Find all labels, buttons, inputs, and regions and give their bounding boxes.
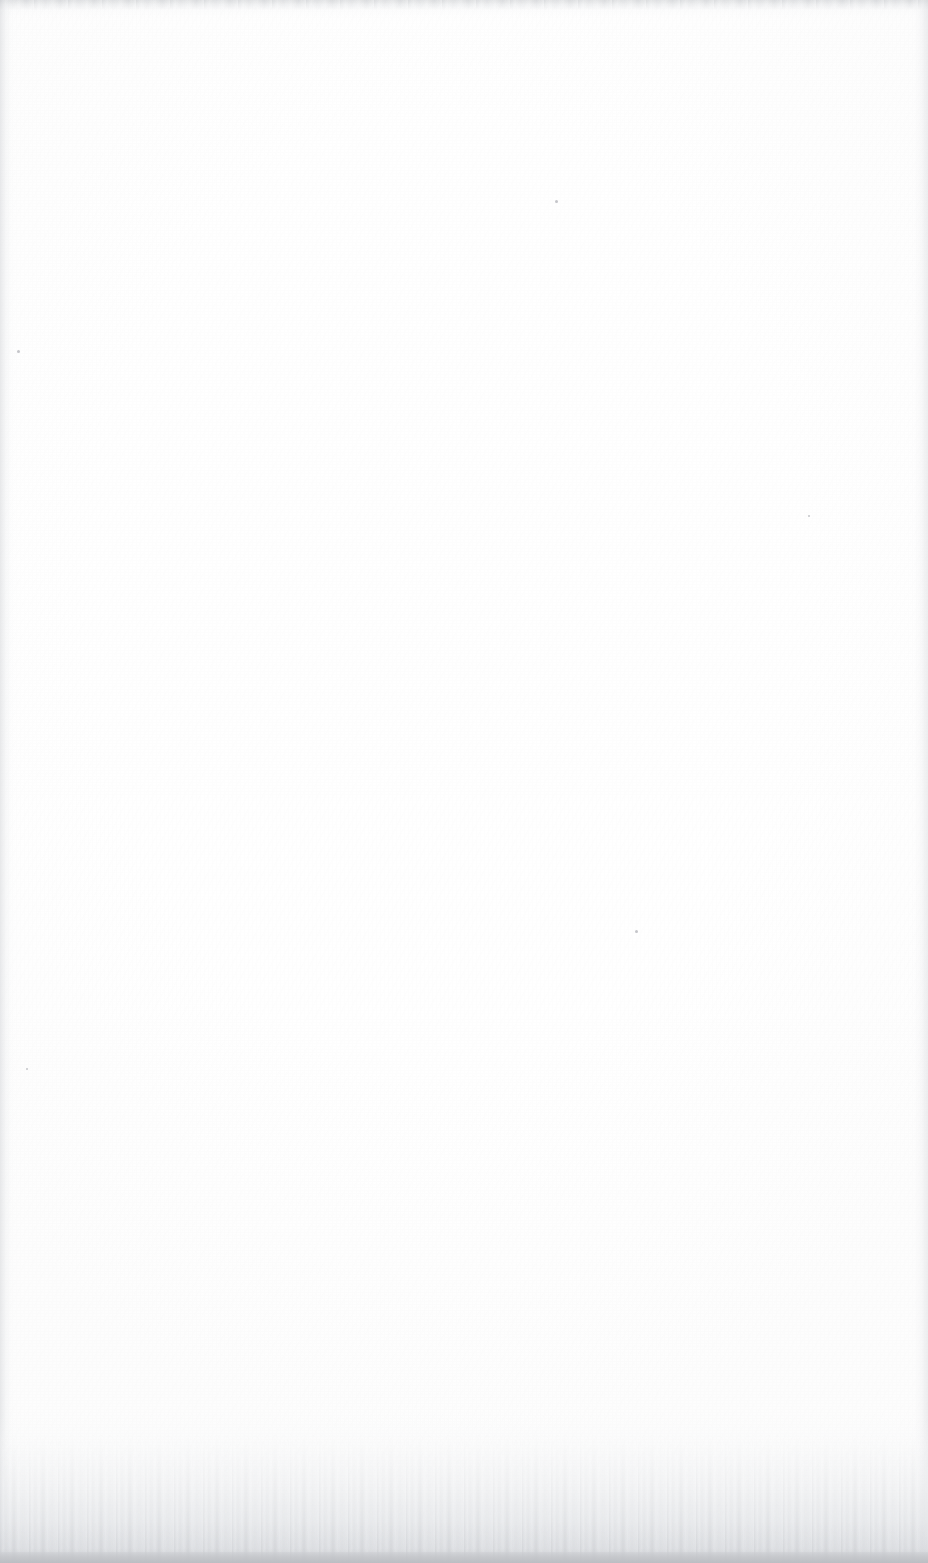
page-content-area: This page intentionally left blank [16, 17, 910, 1413]
left-edge-artifact [0, 0, 16, 1563]
right-edge-artifact [910, 0, 928, 1563]
top-edge-artifact [0, 0, 928, 17]
bottom-shadow-artifact [0, 1413, 928, 1563]
blank-page-note: This page intentionally left blank [16, 17, 17, 18]
scanned-page: This page intentionally left blank [0, 0, 928, 1563]
